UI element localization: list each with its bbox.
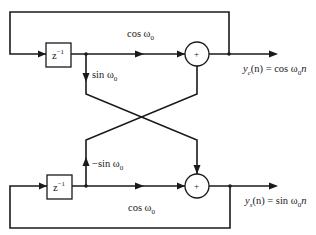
top-output-junction	[227, 52, 231, 56]
top-output-label: yc(n) = cos ω0n	[242, 63, 306, 77]
top-output-arrow-icon	[269, 51, 278, 58]
bottom-output-label: ys(n) = sin ω0n	[244, 195, 306, 209]
bottom-cross-up-arrow-icon	[83, 157, 90, 166]
bottom-forward-gain-label: cos ω0	[128, 202, 156, 216]
top-adder-plus: +	[194, 49, 199, 59]
bottom-adder-input-arrow-icon	[177, 183, 185, 190]
top-adder-input-arrow-icon	[177, 51, 185, 58]
bottom-adder-plus: +	[194, 181, 199, 191]
bottom-feedback-arrow-icon	[39, 183, 47, 190]
top-forward-mid-arrow-icon	[135, 51, 144, 58]
bottom-adder-cross-arrow-icon	[194, 165, 201, 174]
bottom-forward-mid-arrow-icon	[135, 183, 144, 190]
bottom-cross-gain-label: −sin ω0	[92, 158, 124, 172]
bottom-branch-junction	[84, 184, 88, 188]
oscillator-block-diagram: z−1 cos ω0 + yc(n) = cos ω0n sin ω0	[0, 0, 316, 235]
top-branch: z−1 cos ω0 + yc(n) = cos ω0n sin ω0	[10, 12, 306, 83]
top-cross-gain-label: sin ω0	[92, 69, 118, 83]
bottom-output-junction	[228, 184, 232, 188]
bottom-branch: z−1 cos ω0 + ys(n) = sin ω0n −sin ω0	[10, 157, 306, 228]
top-forward-gain-label: cos ω0	[127, 28, 155, 42]
bottom-output-arrow-icon	[269, 183, 278, 190]
top-feedback-arrow-icon	[38, 51, 46, 58]
